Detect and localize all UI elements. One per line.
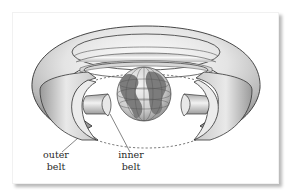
label-outer-belt: outer belt: [43, 149, 69, 172]
label-inner-belt-line2: belt: [122, 161, 141, 172]
inner-belt-tube-left: [83, 94, 111, 116]
label-outer-belt-line1: outer: [43, 149, 69, 160]
label-outer-belt-line2: belt: [47, 161, 66, 172]
label-inner-belt-line1: inner: [118, 149, 144, 160]
inner-belt-tube-right: [181, 94, 209, 116]
earth-globe: [117, 67, 171, 121]
label-inner-belt: inner belt: [118, 149, 144, 172]
van-allen-diagram: outer belt inner belt: [0, 0, 295, 196]
